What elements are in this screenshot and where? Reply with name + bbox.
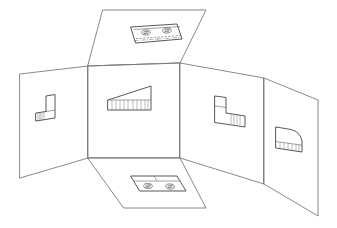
bottom-view-plate [131,176,186,191]
bottom-view-detail [131,176,186,191]
drawing-canvas [0,0,337,228]
front-panel[interactable] [88,63,180,158]
orthographic-glass-box-diagram [0,0,337,228]
left-side-panel[interactable] [20,66,88,178]
